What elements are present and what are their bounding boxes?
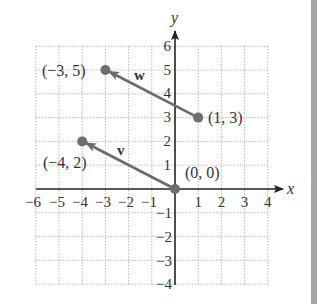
svg-text:3: 3 xyxy=(164,109,172,125)
x-axis-label: x xyxy=(286,180,294,197)
svg-text:−5: −5 xyxy=(49,194,65,210)
x-tick-labels: −6 −5 −4 −3 −2 −1 1 2 3 4 xyxy=(25,194,272,210)
svg-text:−4: −4 xyxy=(156,276,172,292)
point-label-neg4-2: (−4, 2) xyxy=(43,154,87,172)
svg-text:2: 2 xyxy=(164,133,172,149)
svg-text:4: 4 xyxy=(264,194,272,210)
svg-text:−2: −2 xyxy=(156,229,172,245)
svg-text:1: 1 xyxy=(194,194,202,210)
vector-v-label: v xyxy=(117,142,125,158)
point-neg4-2 xyxy=(77,136,87,146)
point-label-1-3: (1, 3) xyxy=(208,109,243,127)
svg-text:6: 6 xyxy=(164,38,172,54)
svg-text:1: 1 xyxy=(164,157,172,173)
point-label-neg3-5: (−3, 5) xyxy=(42,62,86,80)
svg-text:−3: −3 xyxy=(156,253,172,269)
svg-text:3: 3 xyxy=(241,194,249,210)
coordinate-plane: x y −6 −5 −4 −3 −2 −1 1 2 3 4 1 2 3 4 5 … xyxy=(0,0,317,304)
svg-text:−3: −3 xyxy=(95,194,111,210)
vector-v xyxy=(86,143,175,189)
svg-text:4: 4 xyxy=(164,85,172,101)
point-neg3-5 xyxy=(100,65,110,75)
svg-text:−6: −6 xyxy=(25,194,41,210)
svg-text:−2: −2 xyxy=(118,194,134,210)
y-tick-labels: 1 2 3 4 5 6 −1 −2 −3 −4 xyxy=(156,38,172,292)
vector-w-label: w xyxy=(134,67,145,83)
svg-text:−1: −1 xyxy=(141,194,157,210)
svg-text:−1: −1 xyxy=(156,205,172,221)
point-1-3 xyxy=(193,113,203,123)
svg-text:2: 2 xyxy=(218,194,226,210)
y-axis-label: y xyxy=(169,9,179,27)
point-origin xyxy=(170,184,180,194)
page-edge-strip xyxy=(311,0,317,304)
vector-w xyxy=(109,72,198,118)
svg-text:−4: −4 xyxy=(72,194,88,210)
point-label-origin: (0, 0) xyxy=(185,164,220,182)
svg-text:5: 5 xyxy=(164,62,172,78)
